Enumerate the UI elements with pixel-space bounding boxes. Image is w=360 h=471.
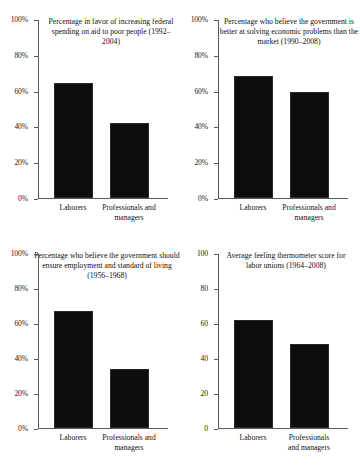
y-tick-mark: 100% — [34, 254, 38, 255]
figure-multi-panel-bar-charts: Percentage in favor of increasing federa… — [0, 0, 360, 471]
x-axis-category-label: Professionals and managers — [96, 203, 163, 222]
y-tick-label: 80% — [14, 285, 28, 293]
plot-area: 020406080100 LaborersProfessionals and m… — [218, 254, 348, 429]
y-tick-label: 0% — [18, 425, 28, 433]
bar: Professionals and managers — [110, 123, 149, 198]
x-axis-line — [218, 198, 348, 199]
bar: Laborers — [234, 76, 273, 198]
y-tick-mark: 20 — [214, 394, 218, 395]
y-tick-label: 0 — [204, 425, 208, 433]
y-tick-label: 20% — [194, 159, 208, 167]
plot-area: 0%20%40%60%80%100% LaborersProfessionals… — [218, 20, 348, 199]
y-tick-label: 20% — [14, 159, 28, 167]
y-tick-mark: 80% — [34, 56, 38, 57]
y-tick-mark: 60% — [214, 92, 218, 93]
x-axis-category-label: Professionals and managers — [276, 433, 343, 452]
y-tick-mark: 0% — [34, 199, 38, 200]
y-tick-mark: 60% — [34, 324, 38, 325]
y-tick-mark: 40% — [214, 127, 218, 128]
y-tick-label: 40% — [14, 355, 28, 363]
y-tick-label: 100% — [191, 16, 208, 24]
y-tick-label: 0% — [18, 195, 28, 203]
y-axis-line — [218, 254, 219, 429]
y-tick-mark: 20% — [34, 163, 38, 164]
y-tick-mark: 80 — [214, 289, 218, 290]
plot-area: 0%20%40%60%80%100% LaborersProfessionals… — [38, 20, 168, 199]
y-tick-label: 80% — [194, 52, 208, 60]
y-axis-line — [38, 254, 39, 429]
y-tick-mark: 80% — [34, 289, 38, 290]
y-tick-mark: 20% — [34, 394, 38, 395]
bar: Professionals and managers — [290, 344, 329, 428]
y-tick-label: 100% — [11, 250, 28, 258]
y-tick-label: 60% — [14, 320, 28, 328]
y-tick-label: 20 — [201, 390, 208, 398]
y-tick-mark: 0 — [214, 429, 218, 430]
y-tick-label: 80% — [14, 52, 28, 60]
y-tick-label: 0% — [198, 195, 208, 203]
x-axis-category-label: Professionals and managers — [276, 203, 343, 222]
bar: Professionals and managers — [110, 369, 149, 429]
chart-panel-3: Percentage who believe the government sh… — [0, 236, 180, 471]
y-tick-mark: 100% — [34, 20, 38, 21]
y-tick-label: 60 — [201, 320, 208, 328]
y-tick-mark: 0% — [34, 429, 38, 430]
bar: Laborers — [234, 320, 273, 429]
chart-panel-2: Percentage who believe the government is… — [180, 0, 360, 235]
chart-panel-4: Average feeling thermometer score for la… — [180, 236, 360, 471]
bar: Laborers — [54, 311, 93, 428]
x-axis-category-label: Professionals and managers — [96, 433, 163, 452]
x-axis-line — [218, 428, 348, 429]
y-tick-mark: 60 — [214, 324, 218, 325]
y-tick-mark: 100 — [214, 254, 218, 255]
y-tick-mark: 100% — [214, 20, 218, 21]
y-tick-label: 40% — [194, 124, 208, 132]
y-tick-mark: 20% — [214, 163, 218, 164]
y-tick-label: 40 — [201, 355, 208, 363]
y-tick-mark: 60% — [34, 92, 38, 93]
y-tick-mark: 40% — [34, 127, 38, 128]
y-tick-label: 100% — [11, 16, 28, 24]
y-tick-label: 100 — [197, 250, 208, 258]
chart-panel-1: Percentage in favor of increasing federa… — [0, 0, 180, 235]
y-tick-mark: 80% — [214, 56, 218, 57]
y-tick-label: 60% — [194, 88, 208, 96]
x-axis-line — [38, 198, 168, 199]
y-axis-line — [38, 20, 39, 199]
y-axis-line — [218, 20, 219, 199]
y-tick-mark: 40 — [214, 359, 218, 360]
y-tick-label: 80 — [201, 285, 208, 293]
x-axis-line — [38, 428, 168, 429]
bar: Professionals and managers — [290, 92, 329, 198]
bar: Laborers — [54, 83, 93, 198]
y-tick-mark: 0% — [214, 199, 218, 200]
plot-area: 0%20%40%60%80%100% LaborersProfessionals… — [38, 254, 168, 429]
y-tick-label: 40% — [14, 124, 28, 132]
y-tick-mark: 40% — [34, 359, 38, 360]
y-tick-label: 20% — [14, 390, 28, 398]
y-tick-label: 60% — [14, 88, 28, 96]
